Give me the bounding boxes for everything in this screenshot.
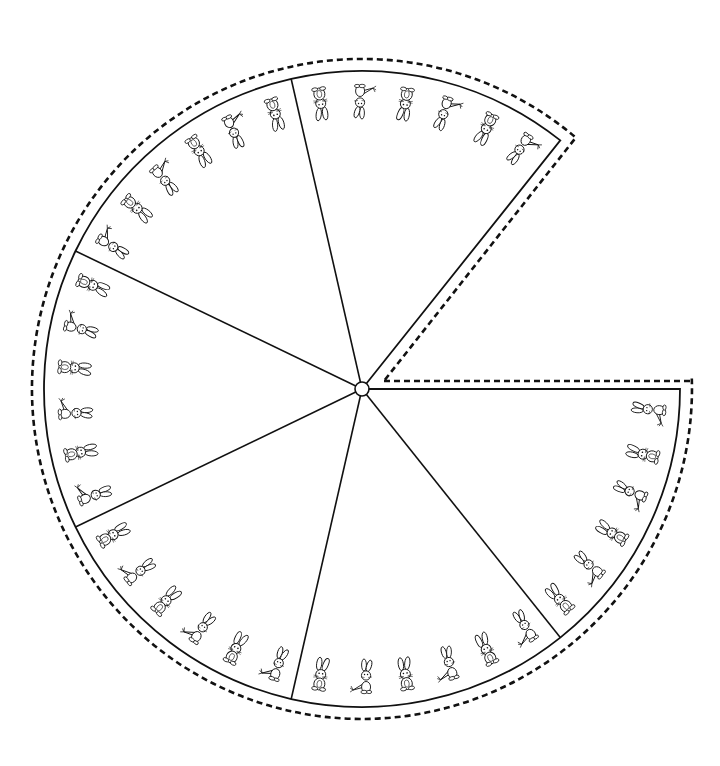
bunny-wheel (0, 0, 720, 766)
center-hub (355, 382, 369, 396)
